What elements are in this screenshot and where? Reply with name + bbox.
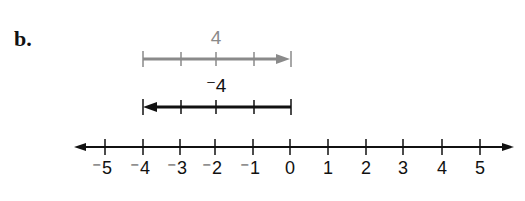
vector-label-negative: ⁻4 [206, 75, 227, 96]
tick-label: ⁻1 [240, 158, 260, 178]
tick-label: 5 [475, 158, 485, 178]
tick-label: 3 [398, 158, 408, 178]
vector-label-positive: 4 [211, 27, 222, 48]
vector-negative-4 [143, 99, 291, 115]
tick-label: ⁻2 [202, 158, 222, 178]
tick-label: ⁻5 [92, 158, 112, 178]
tick-labels: ⁻5 ⁻4 ⁻3 ⁻2 ⁻1 0 1 2 3 4 5 [92, 158, 485, 178]
tick-label: 2 [361, 158, 371, 178]
number-line-diagram: 4 ⁻4 ⁻5 ⁻4 ⁻3 ⁻2 ⁻1 0 1 2 3 4 [0, 0, 525, 201]
number-line [74, 139, 514, 155]
tick-label: ⁻4 [130, 158, 150, 178]
vector-positive-4 [143, 51, 291, 67]
tick-label: ⁻3 [167, 158, 187, 178]
tick-label: 4 [437, 158, 447, 178]
tick-label: 1 [323, 158, 333, 178]
tick-label: 0 [285, 158, 295, 178]
